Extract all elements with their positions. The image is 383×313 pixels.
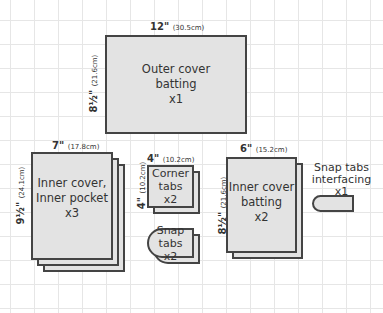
dim-inches: 7" [52,140,64,151]
dim-inches: 6" [240,143,252,154]
outer-cover-width-dim: 12" (30.5cm) [150,21,204,32]
label-line: Snap tabs [147,224,194,250]
label-line: Inner cover, [37,176,106,191]
inner-cover-height-dim: 9½" (24.1cm) [15,151,26,241]
dim-cm: (30.5cm) [173,24,205,32]
corner-tabs-height-dim: 4" (10.2cm) [136,151,147,221]
label-line: x1 [169,92,183,107]
dim-cm: (21.6cm) [91,55,99,87]
dim-inches: 4" [136,197,147,209]
label-line: x2 [164,193,178,206]
snap-tabs-label: Snap tabs x2 [147,228,194,258]
dim-inches: 12" [150,21,169,32]
dim-cm: (10.2cm) [139,162,147,194]
label-line: Inner cover [229,180,294,195]
inner-cover-width-dim: 7" (17.8cm) [52,140,99,151]
label-line: Outer cover [142,62,210,77]
outer-cover-batting-label: Outer cover batting x1 [105,35,247,134]
label-line: x3 [65,206,79,221]
dim-inches: 9½" [15,202,26,225]
dim-cm: (10.2cm) [163,156,195,164]
inner-batting-width-dim: 6" (15.2cm) [240,143,287,154]
label-line: x2 [254,210,268,225]
dim-cm: (15.2cm) [256,146,288,154]
corner-tabs-label: Corner tabs x2 [147,165,194,208]
snap-interfacing-piece [312,195,354,212]
corner-tabs-width-dim: 4" (10.2cm) [147,153,194,164]
label-line: Corner [152,167,189,180]
inner-cover-label: Inner cover, Inner pocket x3 [31,152,113,244]
label-line: batting [241,195,282,210]
label-line: batting [155,77,196,92]
label-line: tabs [159,180,183,193]
dim-inches: 4" [147,153,159,164]
label-line: x2 [164,250,178,263]
dim-cm: (24.1cm) [18,167,26,199]
outer-cover-height-dim: 8½" (21.6cm) [88,39,99,129]
snap-interfacing-label: Snap tabs interfacing x1 [300,162,383,196]
inner-batting-label: Inner cover batting x2 [226,157,297,247]
dim-inches: 8½" [88,90,99,113]
label-line: Inner pocket [36,191,108,206]
dim-cm: (17.8cm) [68,143,100,151]
